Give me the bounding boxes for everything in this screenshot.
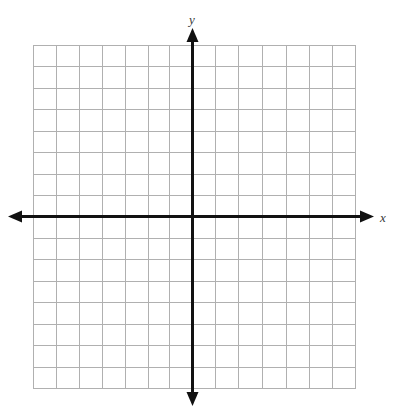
y-axis-down-arrowhead: [187, 392, 199, 406]
x-axis-label: x: [380, 211, 386, 224]
axes: [8, 28, 374, 406]
coordinate-plane-svg: [0, 0, 397, 413]
y-axis-up-arrowhead: [187, 28, 199, 42]
y-axis-label: y: [189, 13, 195, 26]
coordinate-plane-figure: x y: [0, 0, 397, 413]
x-axis-right-arrowhead: [360, 211, 374, 223]
x-axis-left-arrowhead: [8, 211, 22, 223]
